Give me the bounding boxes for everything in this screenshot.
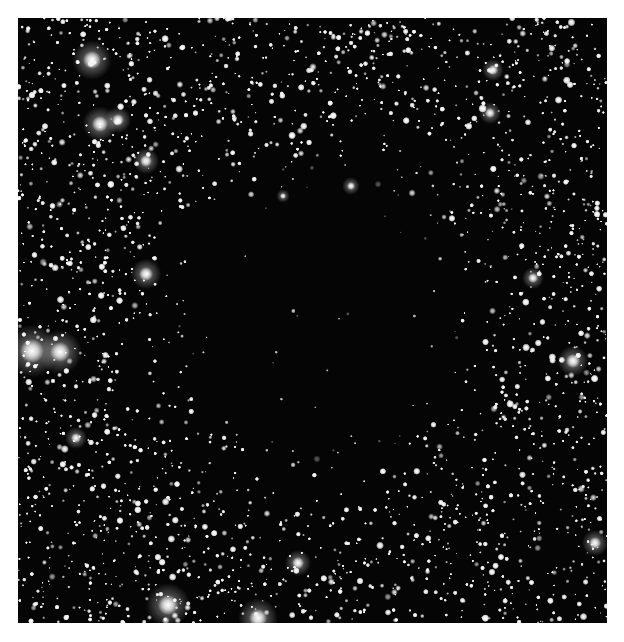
astronomical-image	[18, 18, 607, 623]
star-field	[18, 18, 607, 623]
